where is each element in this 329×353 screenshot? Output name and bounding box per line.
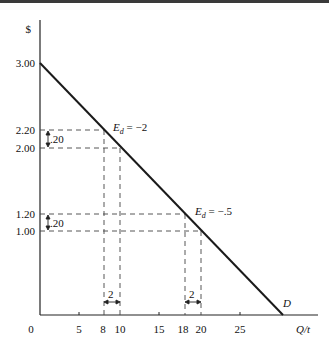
- elasticity-annotation-lower: Ed = −.5: [194, 205, 232, 220]
- x-tick-18: 18: [178, 323, 190, 335]
- quantity-change-label-right: 2: [189, 288, 195, 300]
- elasticity-annotation-upper: Ed = −2: [112, 121, 147, 136]
- y-axis-label: $: [26, 23, 32, 35]
- x-tick-0: 0: [28, 323, 34, 335]
- y-tick-3-00: 3.00: [16, 57, 36, 69]
- demand-curve-label: D: [282, 297, 291, 309]
- x-tick-25: 25: [235, 323, 247, 335]
- y-tick-1-20: 1.20: [16, 208, 36, 220]
- price-change-arrows: [46, 131, 50, 230]
- y-tick-1-00: 1.00: [16, 225, 36, 237]
- price-change-label-upper: .20: [50, 133, 64, 145]
- y-tick-2-20: 2.20: [16, 124, 36, 136]
- y-tick-2-00: 2.00: [16, 142, 36, 154]
- x-axis-label: Q/t: [296, 323, 311, 335]
- demand-elasticity-chart: $ 3.00 2.20 2.00 1.20 1.00 0 5 8 10 15 1…: [0, 0, 329, 353]
- reference-lines: [40, 130, 201, 315]
- quantity-change-label-left: 2: [108, 288, 114, 300]
- x-tick-8: 8: [100, 323, 106, 335]
- x-tick-10: 10: [115, 323, 127, 335]
- quantity-change-arrows: [104, 300, 201, 304]
- x-tick-20: 20: [196, 323, 208, 335]
- price-change-label-lower: .20: [50, 217, 64, 229]
- demand-curve: [40, 63, 283, 315]
- x-tick-5: 5: [76, 323, 82, 335]
- x-tick-15: 15: [154, 323, 166, 335]
